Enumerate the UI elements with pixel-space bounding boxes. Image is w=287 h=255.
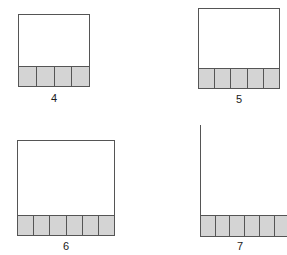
- shaded-cell: [55, 67, 73, 86]
- figure-4-caption: 4: [18, 93, 90, 104]
- shaded-cell: [260, 216, 275, 236]
- shaded-cell: [19, 67, 37, 86]
- shaded-cell: [245, 216, 260, 236]
- shaded-cell: [215, 69, 231, 88]
- figure-7-caption: 7: [200, 241, 280, 252]
- figure-5-shaded-strip: [198, 68, 280, 89]
- shaded-cell: [248, 69, 264, 88]
- figure-5-square: [198, 8, 280, 69]
- shaded-cell: [67, 216, 83, 235]
- figure-5-caption: 5: [198, 94, 280, 105]
- shaded-cell: [37, 67, 55, 86]
- shaded-cell: [83, 216, 99, 235]
- shaded-cell: [34, 216, 50, 235]
- shaded-cell: [18, 216, 34, 235]
- shaded-cell: [231, 69, 247, 88]
- shaded-cell: [72, 67, 89, 86]
- shaded-cell: [275, 216, 287, 236]
- shaded-cell: [199, 69, 215, 88]
- shaded-cell: [230, 216, 245, 236]
- figure-4-square: [18, 14, 90, 67]
- shaded-cell: [201, 216, 216, 236]
- shaded-cell: [99, 216, 114, 235]
- figure-7-square: [200, 125, 287, 217]
- shaded-cell: [216, 216, 231, 236]
- figure-6-shaded-strip: [17, 215, 115, 236]
- figure-6-caption: 6: [17, 241, 115, 252]
- figure-7-shaded-strip: [200, 215, 287, 237]
- figure-6-square: [17, 140, 115, 217]
- shaded-cell: [50, 216, 66, 235]
- shaded-cell: [264, 69, 279, 88]
- figure-4-shaded-strip: [18, 66, 90, 87]
- figures-canvas: 4 5 6: [0, 0, 287, 255]
